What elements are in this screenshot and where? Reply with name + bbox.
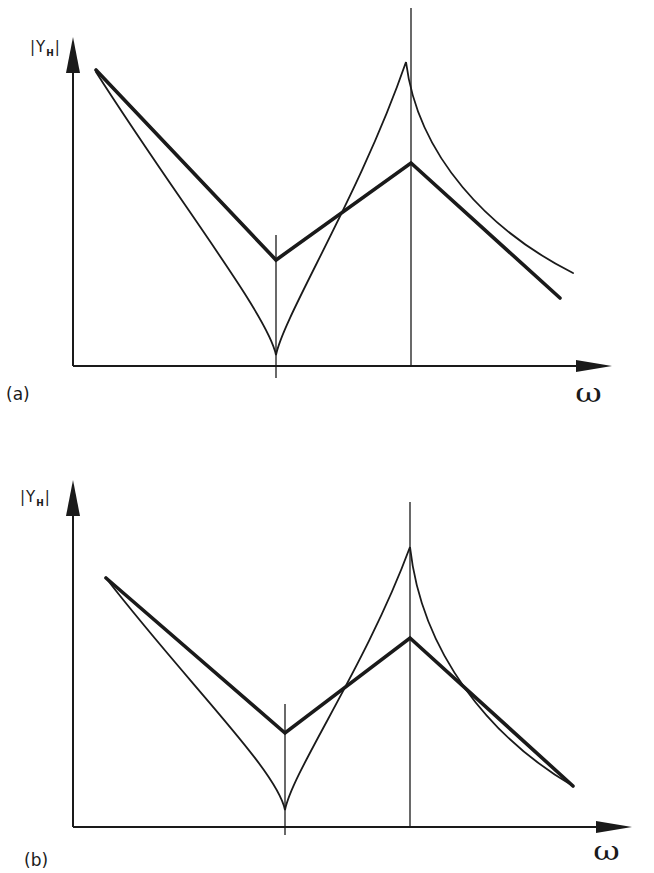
- y-axis-label-a-sub: H: [46, 48, 55, 58]
- panel-b: [66, 480, 632, 835]
- panel-tag-b: (b): [24, 850, 48, 870]
- y-axis-label-a-close: |: [55, 38, 61, 56]
- y-axis-label-a-main: |Y: [30, 38, 46, 56]
- x-axis-label-b: ω: [593, 836, 620, 866]
- y-axis-label-b-main: |Y: [20, 488, 36, 506]
- y-axis-label-b: |YH|: [20, 488, 51, 508]
- x-axis-label-a: ω: [575, 378, 602, 408]
- panel-a: [66, 8, 612, 378]
- y-axis-label-b-sub: H: [36, 498, 45, 508]
- y-axis-arrow-icon: [66, 480, 80, 516]
- x-axis-arrow-icon: [576, 360, 612, 372]
- y-axis-arrow-icon: [66, 37, 80, 73]
- asymptote-line: [106, 578, 573, 786]
- asymptote-line: [96, 70, 560, 298]
- y-axis-label-b-close: |: [45, 488, 51, 506]
- panel-tag-a: (a): [6, 384, 30, 404]
- response-curve: [96, 62, 573, 355]
- x-axis-arrow-icon: [596, 821, 632, 833]
- figure-canvas: [0, 0, 654, 873]
- y-axis-label-a: |YH|: [30, 38, 61, 58]
- response-curve: [106, 547, 573, 810]
